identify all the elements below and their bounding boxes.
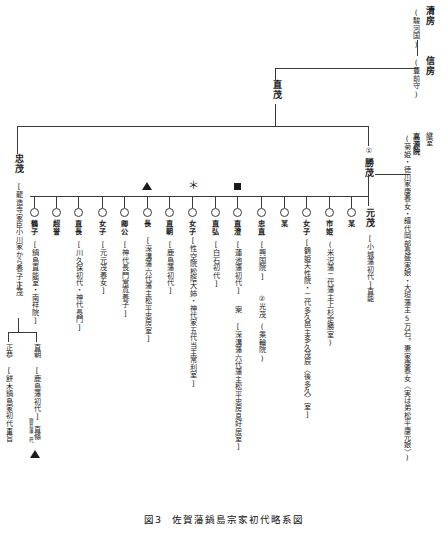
line-to-naotomo [36, 332, 37, 342]
node-circle-child-12 [302, 208, 311, 217]
child-13-name: 市姫 [325, 220, 333, 235]
node-circle-child-13 [325, 208, 334, 217]
line-to-child-12 [306, 196, 307, 208]
ancestor-kiyofusa-note: (駿河国) [412, 8, 420, 49]
child-6-name: 直朝 [165, 220, 173, 235]
line-naoshige-children-bar [17, 126, 369, 127]
child-11-name: 某 [280, 220, 288, 228]
node-circle-child-6 [165, 208, 174, 217]
child-9-note: [蓮池藩初代] [234, 240, 242, 296]
node-circle-child-4 [120, 208, 129, 217]
line-to-masayasu [8, 332, 9, 342]
consort-title: 継室 [425, 132, 433, 147]
ancestor-naoshige-name: 直茂 [272, 80, 281, 99]
line-to-child-2 [78, 196, 79, 208]
child-10-note: [興国院] [258, 240, 266, 281]
node-circle-child-9 [233, 208, 242, 217]
node-circle-child-2 [74, 208, 83, 217]
consort-name: 高源院 [412, 133, 420, 156]
line-naoshige-down [275, 104, 276, 126]
tadashige-note: [龍造寺家臣小川家から養子] [15, 182, 23, 290]
child-8-note: [白石初代] [212, 240, 220, 288]
grandchild-naotomo-note: [鹿島藩初代] [33, 366, 41, 422]
child-15-name: 元茂 [365, 208, 374, 227]
line-nobufusa-to-naoshige [275, 68, 418, 69]
child-4-note: [神代長門常寛養子] [121, 240, 129, 318]
figure-caption: 図3佐賀藩鍋島宗家初代略系図 [0, 512, 448, 526]
figure-caption-number: 図3 [144, 514, 162, 525]
line-naoshige-stub [275, 68, 276, 80]
node-circle-child-10 [257, 208, 266, 217]
child-8-name: 直弘 [211, 220, 219, 235]
child-2-note: [川久保初代・神代長門] [75, 240, 83, 333]
line-kiyofusa-to-nobufusa [417, 40, 418, 56]
line-to-child-0 [34, 196, 35, 208]
line-to-child-13 [329, 196, 330, 208]
grandchild-naotomo-name: 直朝 [33, 344, 41, 359]
child-3-note: [元元茂養女] [99, 240, 107, 296]
line-to-child-14 [351, 196, 352, 208]
child-13-note: (米沢藩二代藩主上杉定勝室) [326, 240, 334, 348]
line-to-child-8 [215, 196, 216, 208]
child-6-note: [鹿島藩初代] [166, 240, 174, 296]
child-5-name: 長 [143, 220, 151, 228]
ancestor-nobufusa-name: 信房 [425, 56, 434, 75]
child-9-child-name: 案 [234, 306, 242, 313]
child-9-name: 直澄 [233, 220, 241, 235]
ancestor-kiyofusa-name: 清房 [425, 6, 434, 25]
child-7-name: 女子 [188, 220, 196, 235]
node-circle-child-1 [52, 208, 61, 217]
child-15-note: [小城藩初代] [366, 234, 374, 290]
line-children-bar [30, 196, 369, 197]
child-0-note: [鍋島直能室・南祥院] [31, 240, 39, 325]
node-circle-child-11 [280, 208, 289, 217]
child-7-note: [性空院松陰大姉・神代家五代当主常利室] [189, 236, 197, 388]
child-10-child-note: (乘輪院) [258, 322, 266, 363]
line-masashige-children-bar [8, 332, 36, 333]
line-to-tadashige [17, 126, 18, 154]
asterisk-marker-child-7: ＊ [188, 182, 199, 190]
square-marker-child-9 [234, 183, 241, 190]
line-to-child-11 [284, 196, 285, 208]
consort-detail: (菊姫・徳川家康養女・譜代岡部長盛実娘・大垣藩主5万石。妻家康養女〈実は弟松平康… [403, 134, 411, 463]
child-9-child-note: [深溝藩六代藩主松平忠房息好房室] [234, 322, 242, 452]
figure-caption-title: 佐賀藩鍋島宗家初代略系図 [172, 514, 304, 525]
triangle-marker-naojo [30, 450, 40, 458]
grandchild-masayasu-child: 直旨 [5, 428, 13, 443]
line-to-child-1 [56, 196, 57, 208]
grandchild-naotomo-child: 直條 [33, 426, 41, 441]
line-masashige-down [18, 318, 19, 332]
child-5-note: [深溝藩六代藩主松平忠房室] [144, 236, 152, 344]
tadashige-child-masashige: 正茂 [15, 282, 23, 297]
child-15-child-name: 直能 [366, 288, 374, 303]
triangle-marker-child-5 [142, 182, 152, 190]
genealogy-chart: 清房 (駿河国) 信房 (豊前守) 直茂 ① 勝茂 継室 高源院 (菊姫・徳川家… [0, 0, 448, 534]
child-2-name: 直長 [74, 220, 82, 235]
line-to-child-10 [261, 196, 262, 208]
child-1-name: 超誉 [52, 220, 60, 235]
ancestor-nobufusa-note: (豊前守) [412, 58, 420, 99]
node-circle-child-7 [188, 208, 197, 217]
node-circle-child-8 [211, 208, 220, 217]
line-to-child-3 [102, 196, 103, 208]
grandchild-masayasu-name: 正恭 [5, 344, 13, 359]
child-0-name: 鶴子 [30, 220, 38, 235]
grandchild-masayasu-note: [餅木鍋島家初代] [5, 366, 13, 437]
line-to-child-4 [124, 196, 125, 208]
child-3-name: 女子 [98, 220, 106, 235]
tadashige-name: 忠茂 [14, 154, 23, 173]
node-circle-child-14 [347, 208, 356, 217]
line-to-child-7 [192, 196, 193, 208]
node-circle-child-3 [98, 208, 107, 217]
line-katsushige-down [368, 174, 369, 196]
line-to-katsushige [368, 126, 369, 146]
line-to-child-5 [147, 196, 148, 208]
grandchild-naotomo-child-note: 鹿島藩二代 [27, 418, 32, 443]
line-to-child-9 [237, 196, 238, 208]
child-12-name: 女子 [302, 220, 310, 235]
child-12-note: [鶴姫天性院・二代多久邑主多久茂辰〈後多久〉室] [303, 238, 311, 420]
katsushige-order: ① [365, 146, 373, 155]
line-to-child-6 [169, 196, 170, 208]
child-14-name: 某 [347, 220, 355, 228]
child-4-name: 卿公 [120, 220, 128, 235]
